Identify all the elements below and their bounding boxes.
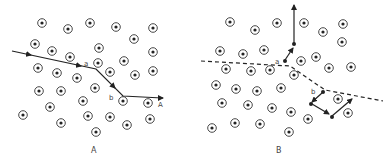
atom-nucleus [262, 48, 265, 51]
atom-nucleus [292, 73, 295, 76]
atom-nucleus [81, 99, 84, 102]
atom-nucleus [275, 21, 278, 24]
atom-nucleus [327, 66, 330, 69]
caption-panel-b: B [276, 146, 282, 155]
atom-nucleus [349, 65, 352, 68]
atom-nucleus [306, 117, 309, 120]
atom-nucleus [108, 70, 111, 73]
atom-nucleus [255, 89, 258, 92]
panel-b-paths [201, 5, 383, 116]
atom-nucleus [50, 49, 53, 52]
atom-nucleus [121, 99, 124, 102]
atom-nucleus [151, 69, 154, 72]
atom-nucleus [224, 67, 227, 70]
atom-nucleus [336, 97, 339, 100]
atom-nucleus [218, 49, 221, 52]
atom-nucleus [302, 21, 305, 24]
atom-nucleus [289, 110, 292, 113]
atom-nucleus [233, 121, 236, 124]
atom-nucleus [279, 86, 282, 89]
atom-nucleus [151, 26, 154, 29]
atom-nucleus [133, 73, 136, 76]
atom-nucleus [249, 69, 252, 72]
atom-nucleus [228, 20, 231, 23]
atom-nucleus [21, 113, 24, 116]
atom-nucleus [234, 87, 237, 90]
atom-nucleus [125, 123, 128, 126]
atom-nucleus [270, 106, 273, 109]
atom-nucleus [151, 50, 154, 53]
label-end-panel-a: A [158, 101, 163, 109]
atom-nucleus [59, 89, 62, 92]
caption-panel-a: A [91, 146, 97, 155]
atom-nucleus [55, 71, 58, 74]
atom-nucleus [341, 22, 344, 25]
atom-nucleus [114, 25, 117, 28]
atom-nucleus [36, 66, 39, 69]
atom-nucleus [253, 28, 256, 31]
atom-nucleus [122, 59, 125, 62]
atom-nucleus [96, 61, 99, 64]
atom-nucleus [86, 114, 89, 117]
label-a-panel-a: a [84, 60, 88, 68]
atom-nucleus [75, 76, 78, 79]
atom-nucleus [48, 105, 51, 108]
atom-nucleus [220, 101, 223, 104]
atom-nucleus [246, 103, 249, 106]
atom-nucleus [299, 59, 302, 62]
atom-nucleus [94, 130, 97, 133]
atom-nucleus [314, 55, 317, 58]
atom-nucleus [214, 83, 217, 86]
atom-nucleus [146, 101, 149, 104]
atom-nucleus [40, 21, 43, 24]
atom-nucleus [33, 42, 36, 45]
atom-nucleus [148, 117, 151, 120]
atom-nucleus [258, 122, 261, 125]
atom-nucleus [93, 86, 96, 89]
atom-nucleus [210, 126, 213, 129]
label-b-panel-a: b [109, 94, 114, 102]
atom-nucleus [268, 68, 271, 71]
atom-nucleus [88, 21, 91, 24]
atom-nucleus [97, 46, 100, 49]
atom-nucleus [346, 111, 349, 114]
atom-nucleus [340, 40, 343, 43]
atom-nucleus [241, 52, 244, 55]
atom-nucleus [321, 30, 324, 33]
atom-nucleus [59, 121, 62, 124]
label-a-panel-b: a [275, 58, 279, 66]
atom-nucleus [37, 89, 40, 92]
atom-nucleus [132, 37, 135, 40]
atom-nucleus [68, 55, 71, 58]
atom-nucleus [66, 27, 69, 30]
atoms-panel-a [19, 19, 158, 137]
atom-nucleus [108, 115, 111, 118]
label-b-panel-b: b [311, 88, 316, 96]
scattering-diagram: a b A a b A B [0, 0, 391, 159]
atom-nucleus [287, 130, 290, 133]
